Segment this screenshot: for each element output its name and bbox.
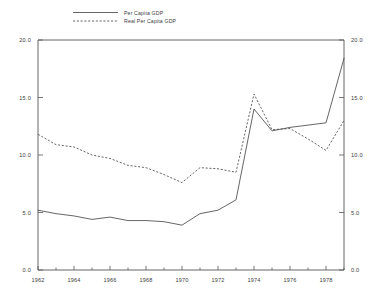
legend-label-real-per-capita-gdp: Real Per Capita GDP <box>124 18 177 24</box>
x-tick-label-8: 1978 <box>319 277 332 283</box>
x-axis-major-ticks: 196219641966196819701972197419761978 <box>31 266 332 283</box>
y-axis-left-ticks: 0.05.010.015.020.0 <box>19 37 43 273</box>
y-tick-label-right-4: 20.0 <box>351 37 363 43</box>
x-tick-label-3: 1968 <box>139 277 152 283</box>
x-tick-label-2: 1966 <box>103 277 116 283</box>
series-line-real-per-capita-gdp <box>38 94 344 183</box>
y-tick-label-left-0: 0.0 <box>23 267 31 273</box>
chart-series-group <box>38 58 344 225</box>
y-tick-label-right-2: 10.0 <box>351 152 363 158</box>
x-tick-label-0: 1962 <box>31 277 44 283</box>
y-tick-label-right-0: 0.0 <box>351 267 359 273</box>
legend-label-per-capita-gdp: Per Capita GDP <box>124 10 164 16</box>
series-line-per-capita-gdp <box>38 58 344 225</box>
gdp-line-chart: Per Capita GDP Real Per Capita GDP 0.05.… <box>0 0 383 303</box>
x-tick-label-4: 1970 <box>175 277 188 283</box>
x-tick-label-7: 1976 <box>283 277 296 283</box>
chart-frame <box>38 40 344 270</box>
x-tick-label-6: 1974 <box>247 277 260 283</box>
y-tick-label-left-2: 10.0 <box>19 152 31 158</box>
y-tick-label-left-4: 20.0 <box>19 37 31 43</box>
chart-legend: Per Capita GDP Real Per Capita GDP <box>73 10 177 25</box>
y-tick-label-left-1: 5.0 <box>23 210 31 216</box>
chart-container: Per Capita GDP Real Per Capita GDP 0.05.… <box>0 0 383 303</box>
y-axis-right-ticks: 0.05.010.015.020.0 <box>339 37 363 273</box>
x-tick-label-5: 1972 <box>211 277 224 283</box>
y-tick-label-right-1: 5.0 <box>351 210 359 216</box>
y-tick-label-right-3: 15.0 <box>351 95 363 101</box>
y-tick-label-left-3: 15.0 <box>19 95 31 101</box>
x-tick-label-1: 1964 <box>67 277 80 283</box>
